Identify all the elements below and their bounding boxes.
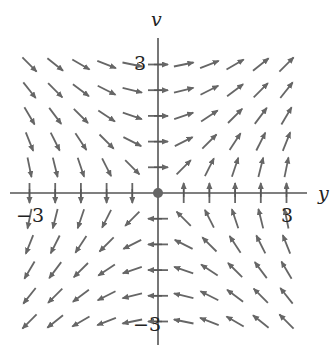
field-arrow [125, 160, 139, 174]
field-arrow [73, 84, 89, 96]
field-arrow [123, 267, 142, 273]
tick-label-h-neg: −3 [16, 204, 44, 226]
field-arrow [174, 63, 194, 67]
field-arrow [75, 236, 86, 253]
field-arrow [24, 262, 34, 279]
field-arrow [53, 209, 58, 228]
field-arrow [51, 133, 60, 151]
field-arrow [254, 289, 268, 303]
field-arrow [285, 158, 289, 178]
field-arrow [227, 316, 244, 326]
field-arrow [232, 158, 238, 177]
field-arrow [100, 237, 114, 251]
field-arrow [23, 82, 35, 98]
field-arrow [283, 132, 290, 151]
field-arrow [255, 262, 267, 278]
field-arrow [74, 109, 88, 123]
field-arrow [102, 158, 111, 176]
field-arrow [98, 86, 116, 95]
field-arrow [281, 107, 291, 124]
field-arrow [258, 209, 263, 228]
field-arrow [175, 137, 193, 146]
field-arrow [123, 88, 142, 93]
tick-label-v-neg: −3 [133, 313, 161, 335]
field-arrow [227, 59, 244, 69]
field-arrow [98, 291, 116, 300]
field-arrow [75, 133, 86, 150]
field-arrow [253, 58, 269, 70]
field-arrow [279, 57, 293, 71]
field-arrow [123, 240, 141, 249]
field-arrow [258, 158, 263, 177]
field-arrow [201, 110, 218, 121]
field-arrow [100, 135, 114, 149]
field-arrow [256, 236, 265, 254]
field-arrow [256, 133, 265, 151]
field-arrow [232, 209, 238, 228]
field-arrow [47, 58, 63, 70]
field-arrow [201, 291, 219, 300]
field-arrow [177, 160, 191, 174]
tick-label-v-pos: 3 [134, 52, 146, 74]
field-arrow [227, 290, 243, 302]
field-arrow [174, 267, 193, 273]
field-arrow [123, 293, 142, 298]
field-arrow [102, 210, 111, 228]
vertical-axis-label: v [151, 8, 162, 30]
field-arrow [28, 158, 32, 178]
horizontal-axis-label: y [317, 182, 329, 204]
field-arrow [97, 61, 116, 68]
field-arrow [22, 57, 36, 71]
field-arrow [174, 113, 193, 119]
field-arrow [22, 314, 36, 328]
field-arrow [175, 240, 193, 249]
field-arrow [123, 137, 141, 146]
field-arrow [253, 315, 269, 327]
field-arrow [47, 315, 63, 327]
field-arrow [78, 209, 84, 228]
field-arrow [230, 236, 241, 253]
field-arrow [174, 293, 193, 298]
field-arrow [202, 237, 216, 251]
field-arrow [74, 263, 88, 277]
field-arrow [98, 265, 115, 276]
field-arrow [200, 61, 219, 68]
field-arrow [78, 158, 84, 177]
tick-label-h-pos: 3 [281, 204, 293, 226]
field-arrow [202, 135, 216, 149]
field-arrow [200, 318, 219, 325]
field-arrow [174, 320, 194, 324]
field-arrow [49, 108, 61, 124]
field-arrow [201, 86, 219, 95]
field-arrow [72, 59, 89, 69]
field-arrow [230, 133, 241, 150]
field-arrow [49, 262, 61, 278]
field-arrow [205, 158, 214, 176]
field-arrow [255, 108, 267, 124]
field-arrow [177, 212, 191, 226]
field-arrow [98, 110, 115, 121]
field-arrow [280, 288, 292, 304]
field-arrow [281, 262, 291, 279]
field-arrow [26, 132, 33, 151]
vector-field-diagram: y v −3 3 3 −3 [0, 0, 333, 352]
field-arrow [280, 82, 292, 98]
field-arrow [48, 83, 62, 97]
field-arrow [205, 210, 214, 228]
field-arrow [123, 113, 142, 119]
field-arrow [23, 288, 35, 304]
field-arrow [48, 289, 62, 303]
field-arrow [283, 235, 290, 254]
field-arrow [72, 316, 89, 326]
field-arrow [228, 263, 242, 277]
field-arrow [26, 235, 33, 254]
field-arrow [24, 107, 34, 124]
field-arrow [279, 314, 293, 328]
field-arrow [125, 212, 139, 226]
field-arrow [53, 158, 58, 177]
field-arrow [201, 265, 218, 276]
field-arrow [51, 236, 60, 254]
field-arrow [73, 290, 89, 302]
field-arrow [228, 109, 242, 123]
origin-equilibrium-dot [153, 188, 163, 198]
